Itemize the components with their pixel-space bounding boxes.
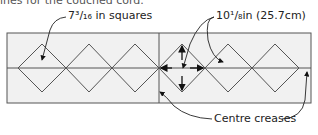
- creases-label: Centre creases: [214, 112, 296, 125]
- diagonal-label: 10¹/₈in (25.7cm): [216, 9, 306, 22]
- square-size-label: 7³/₁₆ in squares: [68, 9, 152, 22]
